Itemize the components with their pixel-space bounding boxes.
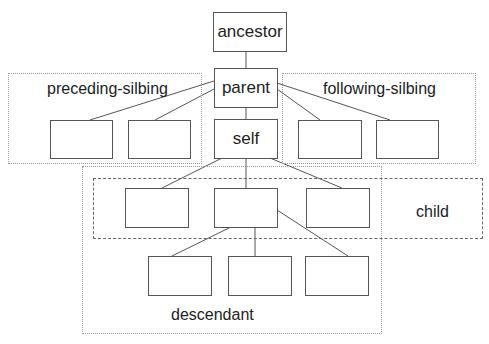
preceding-sibling-node (128, 120, 191, 159)
child-node (125, 188, 189, 228)
child-node (214, 188, 278, 228)
following-sibling-node (376, 120, 439, 159)
grandchild-node (228, 256, 292, 296)
parent-label: parent (222, 78, 270, 98)
grandchild-node (148, 256, 212, 296)
grandchild-node (305, 256, 369, 296)
self-node: self (214, 119, 278, 159)
child-label: child (416, 203, 449, 221)
ancestor-node: ancestor (213, 12, 287, 52)
descendant-label: descendant (171, 306, 254, 324)
parent-node: parent (214, 68, 278, 108)
following-sibling-node (298, 120, 362, 159)
preceding-sibling-label: preceding-silbing (47, 80, 168, 98)
child-node (306, 188, 370, 228)
following-sibling-label: following-silbing (323, 80, 436, 98)
ancestor-label: ancestor (217, 22, 282, 42)
self-label: self (233, 129, 259, 149)
preceding-sibling-node (50, 120, 113, 159)
